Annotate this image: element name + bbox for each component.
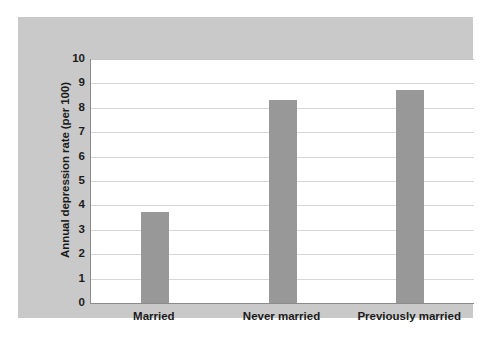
bar bbox=[396, 90, 424, 304]
y-tick-label: 3 bbox=[79, 224, 85, 236]
x-tick-label: Married bbox=[133, 309, 175, 323]
bar bbox=[141, 212, 169, 304]
y-tick-label: 1 bbox=[79, 273, 85, 285]
y-axis-title: Annual depression rate (per 100) bbox=[58, 45, 72, 295]
x-tick-label: Never married bbox=[243, 309, 320, 323]
chart-figure: Annual depression rate (per 100) 0123456… bbox=[0, 0, 491, 343]
y-tick-label: 7 bbox=[79, 126, 85, 138]
y-tick-label: 0 bbox=[79, 297, 85, 309]
y-tick-label: 6 bbox=[79, 151, 85, 163]
y-tick-label: 4 bbox=[79, 200, 85, 212]
figure-panel: Annual depression rate (per 100) 0123456… bbox=[18, 17, 473, 318]
bar-series bbox=[91, 59, 474, 303]
y-tick-label: 8 bbox=[79, 102, 85, 114]
x-tick-label: Previously married bbox=[357, 309, 461, 323]
x-axis-tick-labels: MarriedNever marriedPreviously married bbox=[90, 309, 473, 329]
y-tick-label: 5 bbox=[79, 175, 85, 187]
y-tick-label: 9 bbox=[79, 78, 85, 90]
bar bbox=[269, 100, 297, 303]
plot-area: 012345678910 bbox=[90, 59, 474, 304]
y-tick-label: 10 bbox=[72, 53, 85, 65]
y-tick-label: 2 bbox=[79, 248, 85, 260]
